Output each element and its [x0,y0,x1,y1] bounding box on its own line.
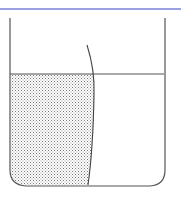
stippled-region [11,74,94,185]
container-diagram [0,0,181,199]
